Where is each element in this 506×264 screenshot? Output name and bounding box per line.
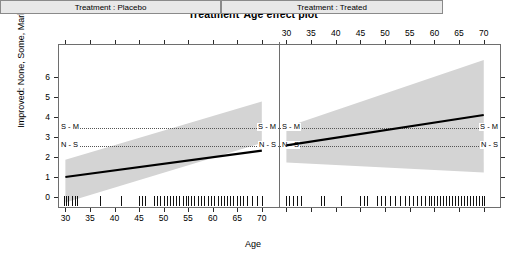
y-tick-mark	[501, 137, 505, 138]
effect-plot-figure: Treatment*Age effect plot Improved: None…	[0, 0, 506, 264]
rug-tick	[289, 196, 290, 206]
rug-tick	[72, 196, 73, 206]
rug-tick	[301, 196, 302, 206]
rug-tick	[297, 196, 298, 206]
rug-tick	[464, 196, 465, 206]
rug-tick	[400, 196, 401, 206]
rug-tick	[364, 196, 365, 206]
x-tick-label: 35	[78, 213, 102, 223]
x-tick-mark	[410, 208, 411, 212]
x-tick-label: 65	[447, 28, 471, 38]
x-tick-label: 60	[201, 213, 225, 223]
rug-tick	[385, 196, 386, 206]
fitted-line	[58, 58, 279, 208]
y-tick-label: 0	[34, 192, 50, 202]
x-tick-mark	[286, 208, 287, 212]
x-tick-label: 45	[348, 28, 372, 38]
rug-tick	[421, 196, 422, 206]
rug-tick	[446, 196, 447, 206]
y-tick-label: 1	[34, 172, 50, 182]
y-tick-mark	[501, 177, 505, 178]
rug-tick	[395, 196, 396, 206]
fitted-line	[279, 58, 501, 208]
rug-tick	[458, 196, 459, 206]
rug-tick	[440, 196, 441, 206]
x-tick-label: 50	[152, 213, 176, 223]
rug-tick	[467, 196, 468, 206]
panel-divider	[279, 42, 280, 208]
x-tick-label: 40	[103, 213, 127, 223]
rug-tick	[341, 196, 342, 206]
x-tick-mark	[434, 208, 435, 212]
rug-tick	[470, 196, 471, 206]
y-tick-label: 2	[34, 152, 50, 162]
y-tick-mark	[501, 117, 505, 118]
strip-placebo-label: Treatment : Placebo	[75, 3, 147, 12]
x-tick-label: 30	[53, 213, 77, 223]
rug-tick	[479, 196, 480, 206]
rug-tick	[381, 196, 382, 206]
rug-tick	[194, 196, 195, 206]
rug-tick	[154, 196, 155, 206]
rug-tick	[191, 196, 192, 206]
rug-tick	[243, 196, 244, 206]
rug-tick	[484, 196, 485, 206]
x-tick-mark	[385, 208, 386, 212]
rug-tick	[100, 196, 101, 206]
x-tick-mark	[115, 208, 116, 212]
rug-tick	[377, 196, 378, 206]
rug-tick	[218, 196, 219, 206]
rug-tick	[75, 196, 76, 206]
rug-tick	[211, 196, 212, 206]
rug-tick	[77, 196, 78, 206]
rug-tick	[360, 196, 361, 206]
rug-tick	[179, 196, 180, 206]
rug-tick	[64, 196, 65, 206]
rug-tick	[198, 196, 199, 206]
rug-tick	[214, 196, 215, 206]
strip-treated-label: Treatment : Treated	[297, 3, 367, 12]
rug-tick	[431, 196, 432, 206]
y-tick-mark	[501, 97, 505, 98]
rug-tick	[221, 196, 222, 206]
rug-tick	[160, 196, 161, 206]
rug-tick	[247, 196, 248, 206]
x-tick-mark	[311, 208, 312, 212]
x-tick-label: 30	[274, 28, 298, 38]
rug-tick	[186, 196, 187, 206]
rug-tick	[429, 196, 430, 206]
x-tick-mark	[237, 208, 238, 212]
x-tick-mark	[484, 208, 485, 212]
rug-tick	[293, 196, 294, 206]
rug-tick	[321, 196, 322, 206]
rug-tick	[409, 196, 410, 206]
rug-tick	[164, 196, 165, 206]
plot-frame: S - MS - MN - SN - S S - MS - MN - SN - …	[58, 44, 501, 208]
panel-placebo: S - MS - MN - SN - S	[58, 44, 279, 208]
rug-tick	[170, 196, 171, 206]
rug-tick	[413, 196, 414, 206]
rug-tick	[286, 196, 287, 206]
x-tick-label: 50	[373, 28, 397, 38]
rug-tick	[230, 196, 231, 206]
rug-tick	[390, 196, 391, 206]
x-tick-label: 70	[472, 28, 496, 38]
rug-tick	[208, 196, 209, 206]
y-tick-label: 4	[34, 112, 50, 122]
x-tick-mark	[336, 208, 337, 212]
x-tick-label: 35	[299, 28, 323, 38]
rug-tick	[233, 196, 234, 206]
y-tick-mark	[501, 197, 505, 198]
rug-tick	[157, 196, 158, 206]
x-tick-mark	[360, 208, 361, 212]
x-tick-label: 40	[324, 28, 348, 38]
x-tick-mark	[262, 208, 263, 212]
rug-tick	[145, 196, 146, 206]
rug-tick	[204, 196, 205, 206]
y-tick-mark	[501, 77, 505, 78]
rug-tick	[417, 196, 418, 206]
rug-tick	[262, 196, 263, 206]
y-tick-mark	[501, 157, 505, 158]
rug-tick	[237, 196, 238, 206]
rug-tick	[443, 196, 444, 206]
